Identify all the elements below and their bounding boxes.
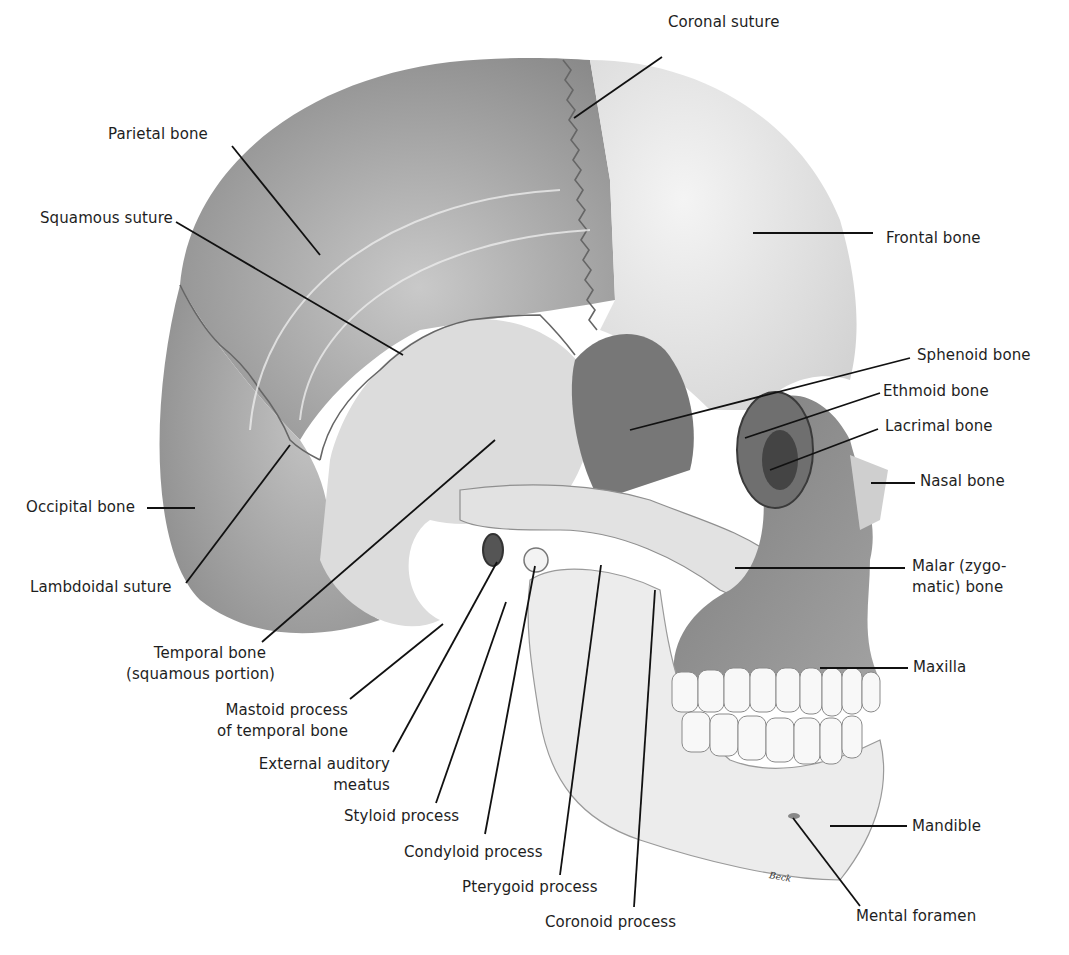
label-occipital-bone: Occipital bone: [26, 497, 135, 518]
label-external-auditory-meatus-line1: External auditory: [230, 754, 390, 775]
label-mastoid-process-line1: Mastoid process: [200, 700, 348, 721]
label-mental-foramen: Mental foramen: [856, 906, 976, 927]
label-lacrimal-bone: Lacrimal bone: [885, 416, 993, 437]
label-frontal-bone: Frontal bone: [886, 228, 981, 249]
label-nasal-bone: Nasal bone: [920, 471, 1005, 492]
label-ethmoid-bone: Ethmoid bone: [883, 381, 989, 402]
label-malar-bone-line1: Malar (zygo-: [912, 556, 1007, 577]
external-auditory-meatus-shape: [483, 534, 503, 566]
label-maxilla: Maxilla: [913, 657, 966, 678]
label-condyloid-process: Condyloid process: [404, 842, 543, 863]
label-pterygoid-process: Pterygoid process: [462, 877, 598, 898]
label-mastoid-process-line2: of temporal bone: [200, 721, 348, 742]
label-temporal-bone-line2: (squamous portion): [126, 664, 266, 685]
label-parietal-bone: Parietal bone: [108, 124, 208, 145]
label-mastoid-process: Mastoid process of temporal bone: [200, 700, 348, 742]
condyle-shape: [524, 548, 548, 572]
label-squamous-suture: Squamous suture: [40, 208, 173, 229]
label-malar-bone: Malar (zygo- matic) bone: [912, 556, 1007, 598]
label-lambdoidal-suture: Lambdoidal suture: [30, 577, 172, 598]
lacrimal-shape: [762, 430, 798, 490]
label-mandible: Mandible: [912, 816, 981, 837]
label-temporal-bone-line1: Temporal bone: [126, 643, 266, 664]
label-coronal-suture: Coronal suture: [668, 12, 779, 33]
teeth: [672, 668, 880, 764]
label-temporal-bone: Temporal bone (squamous portion): [126, 643, 266, 685]
label-malar-bone-line2: matic) bone: [912, 577, 1007, 598]
label-external-auditory-meatus-line2: meatus: [230, 775, 390, 796]
label-external-auditory-meatus: External auditory meatus: [230, 754, 390, 796]
label-styloid-process: Styloid process: [344, 806, 459, 827]
label-coronoid-process: Coronoid process: [545, 912, 676, 933]
label-sphenoid-bone: Sphenoid bone: [917, 345, 1031, 366]
